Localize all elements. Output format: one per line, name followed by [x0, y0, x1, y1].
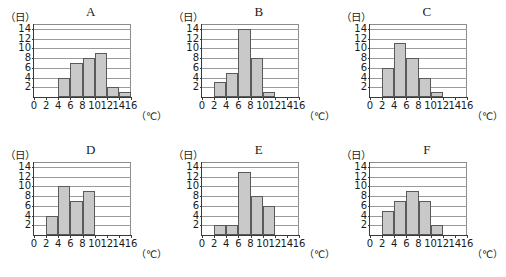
y-tick-label: 12	[186, 33, 199, 43]
x-tick-label: 8	[247, 101, 253, 111]
chart-row-top: （日）A24681012140246810121416（℃）（日）B246810…	[0, 0, 506, 138]
x-tick-label: 2	[211, 101, 217, 111]
y-tick-label: 4	[361, 72, 367, 82]
histogram-bar	[95, 53, 107, 97]
x-tick-label: 12	[100, 101, 113, 111]
x-axis-unit-label: （℃）	[472, 246, 503, 261]
x-tick-label: 0	[199, 239, 205, 249]
y-tick-label: 14	[186, 24, 199, 34]
y-tick-label: 12	[18, 171, 31, 181]
histogram-bar	[394, 201, 406, 235]
y-tick-label: 14	[354, 24, 367, 34]
y-tick-label: 8	[25, 191, 31, 201]
y-tick-label: 12	[354, 171, 367, 181]
x-tick-label: 14	[113, 239, 126, 249]
x-tick-label: 2	[43, 239, 49, 249]
histogram-bar	[238, 29, 250, 97]
histogram-bar	[214, 82, 226, 97]
x-tick-label: 0	[367, 239, 373, 249]
x-tick-label: 10	[88, 101, 101, 111]
histogram-bar	[107, 87, 119, 97]
x-tick-label: 14	[449, 101, 462, 111]
histogram-bar	[251, 58, 263, 97]
y-tick-label: 6	[193, 201, 199, 211]
chart-title: E	[168, 142, 336, 158]
histogram-bar	[394, 43, 406, 97]
x-tick-label: 0	[31, 101, 37, 111]
y-tick-label: 2	[25, 82, 31, 92]
x-tick-label: 4	[391, 101, 397, 111]
x-axis-unit-label: （℃）	[136, 246, 167, 261]
histogram-bar	[214, 225, 226, 235]
histogram-panel-d: （日）D24681012140246810121416（℃）	[0, 138, 168, 276]
histogram-bar	[419, 201, 431, 235]
x-tick-label: 2	[379, 239, 385, 249]
histogram-bar	[382, 211, 394, 235]
histogram-bar	[406, 58, 418, 97]
x-tick-label: 0	[31, 239, 37, 249]
x-tick-label: 14	[281, 239, 294, 249]
y-tick-label: 10	[354, 43, 367, 53]
x-tick-label: 14	[449, 239, 462, 249]
histogram-bar	[238, 172, 250, 235]
y-tick-label: 4	[361, 210, 367, 220]
y-tick-label: 8	[193, 53, 199, 63]
plot-area: 24681012140246810121416	[369, 162, 467, 236]
histogram-bar	[70, 63, 82, 97]
x-tick-label: 12	[100, 239, 113, 249]
y-tick-label: 2	[25, 220, 31, 230]
x-tick-label: 4	[55, 239, 61, 249]
y-tick-label: 4	[25, 72, 31, 82]
histogram-bar	[70, 201, 82, 235]
plot-area: 24681012140246810121416	[201, 24, 299, 98]
x-tick-label: 12	[268, 101, 281, 111]
x-tick-label: 6	[235, 101, 241, 111]
x-tick-label: 6	[67, 239, 73, 249]
x-tick-label: 6	[67, 101, 73, 111]
histogram-bar	[226, 225, 238, 235]
x-tick-label: 10	[88, 239, 101, 249]
x-tick-label: 8	[415, 101, 421, 111]
y-tick-label: 14	[18, 24, 31, 34]
chart-title: B	[168, 4, 336, 20]
x-tick-label: 10	[424, 239, 437, 249]
histogram-panel-f: （日）F24681012140246810121416（℃）	[336, 138, 504, 276]
y-tick-label: 10	[186, 181, 199, 191]
y-tick-label: 12	[354, 33, 367, 43]
y-tick-label: 6	[361, 63, 367, 73]
x-tick-label: 4	[223, 239, 229, 249]
x-tick-label: 4	[55, 101, 61, 111]
histogram-bar	[263, 92, 275, 97]
x-tick-label: 6	[403, 239, 409, 249]
histogram-panel-b: （日）B24681012140246810121416（℃）	[168, 0, 336, 138]
y-tick-label: 6	[25, 63, 31, 73]
x-tick-label: 12	[268, 239, 281, 249]
histogram-bar	[431, 225, 443, 235]
y-tick-label: 14	[354, 162, 367, 172]
bar-series	[202, 24, 299, 97]
bar-series	[202, 162, 299, 235]
x-tick-label: 6	[403, 101, 409, 111]
histogram-bar	[382, 68, 394, 97]
histogram-panel-a: （日）A24681012140246810121416（℃）	[0, 0, 168, 138]
y-tick-label: 2	[361, 220, 367, 230]
y-tick-label: 10	[186, 43, 199, 53]
histogram-bar	[58, 78, 70, 97]
histogram-panel-c: （日）C24681012140246810121416（℃）	[336, 0, 504, 138]
histogram-bar	[46, 216, 58, 235]
x-tick-label: 6	[235, 239, 241, 249]
histogram-sheet: （日）A24681012140246810121416（℃）（日）B246810…	[0, 0, 506, 277]
y-tick-label: 2	[361, 82, 367, 92]
x-axis-unit-label: （℃）	[136, 108, 167, 123]
x-tick-label: 2	[379, 101, 385, 111]
chart-title: A	[0, 4, 168, 20]
x-tick-label: 14	[113, 101, 126, 111]
x-tick-label: 8	[247, 239, 253, 249]
y-tick-label: 4	[25, 210, 31, 220]
y-tick-label: 4	[193, 210, 199, 220]
x-tick-label: 8	[79, 239, 85, 249]
plot-area: 24681012140246810121416	[369, 24, 467, 98]
histogram-bar	[419, 78, 431, 97]
bar-series	[34, 24, 131, 97]
x-tick-label: 8	[79, 101, 85, 111]
